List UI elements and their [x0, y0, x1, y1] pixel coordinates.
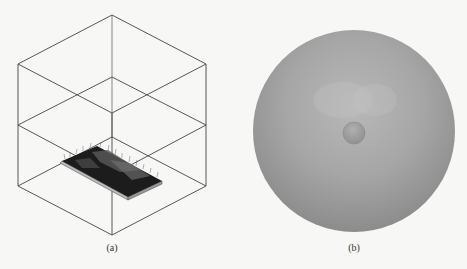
wireframe-cube-figure: [0, 0, 233, 269]
panel-b: (b): [233, 0, 467, 269]
cube-wireframe: [18, 15, 206, 235]
caption-b: (b): [334, 242, 374, 253]
sphere-figure: [233, 0, 467, 269]
caption-a: (a): [92, 242, 132, 253]
inner-sphere: [343, 122, 365, 144]
panel-a: (a): [0, 0, 233, 269]
terrain-slab: [60, 142, 162, 200]
